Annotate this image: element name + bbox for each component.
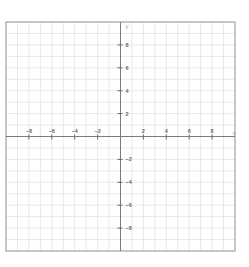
x-tick-label: −2: [94, 128, 100, 134]
x-axis-label: x: [233, 130, 236, 136]
y-tick-label: −2: [126, 156, 132, 162]
x-tick-label: −8: [26, 128, 32, 134]
x-tick-label: 6: [188, 128, 191, 134]
y-tick-label: −6: [126, 202, 132, 208]
x-tick-label: −4: [72, 128, 79, 134]
y-axis-label: y: [126, 23, 129, 29]
y-tick-label: 6: [126, 65, 129, 71]
x-tick-label: −6: [49, 128, 55, 134]
y-tick-label: 8: [126, 42, 129, 48]
coordinate-plane: −8−6−4−224688642−2−4−6−8 x y: [0, 0, 249, 267]
x-tick-label: 2: [142, 128, 145, 134]
y-tick-label: −4: [126, 179, 133, 185]
y-tick-label: −8: [126, 225, 132, 231]
x-tick-label: 8: [211, 128, 214, 134]
y-tick-label: 2: [126, 111, 129, 117]
x-tick-label: 4: [165, 128, 169, 134]
